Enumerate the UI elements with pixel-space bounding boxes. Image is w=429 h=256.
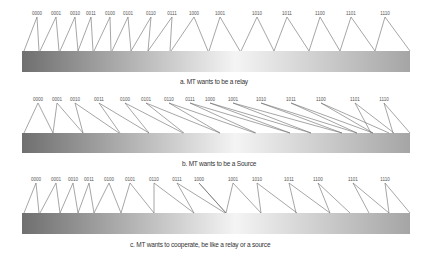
gradient-bar — [22, 133, 410, 153]
mapping-edge — [351, 17, 375, 51]
mapping-edge — [109, 183, 121, 213]
mapping-edge — [375, 17, 385, 51]
codeword-label: 1011 — [282, 11, 292, 16]
codeword-label: 0110 — [149, 177, 159, 182]
mapping-edge — [257, 17, 274, 51]
mapping-edge — [177, 183, 194, 213]
mapping-edge — [226, 183, 233, 213]
mapping-edge — [78, 17, 91, 51]
codeword-label: 1000 — [189, 11, 200, 16]
codeword-label: 1100 — [315, 11, 325, 16]
mapping-edge — [148, 17, 172, 51]
codeword-label: 1001 — [228, 177, 239, 182]
mapping-edge — [40, 183, 56, 213]
codeword-label: 0100 — [104, 177, 115, 182]
mapping-edge — [60, 17, 75, 51]
mapping-edge — [78, 183, 89, 213]
mapping-edge — [257, 183, 261, 213]
mapping-edge — [318, 183, 350, 213]
diagram-canvas: 0000000100100011010001010110011110001001… — [0, 0, 429, 256]
mapping-edge — [24, 17, 37, 51]
mapping-edge — [385, 17, 410, 51]
codeword-label: 1101 — [350, 97, 360, 102]
mapping-edge — [110, 17, 111, 51]
codeword-label: 1101 — [346, 11, 356, 16]
codeword-label: 0011 — [94, 97, 104, 102]
mapping-edge — [99, 103, 149, 133]
mapping-edge — [40, 17, 56, 51]
mapping-edge — [73, 183, 78, 213]
codeword-label: 0000 — [32, 11, 43, 16]
mapping-edge — [75, 17, 78, 51]
mapping-edge — [154, 183, 194, 213]
mapping-edge — [210, 103, 311, 133]
mapping-edge — [199, 183, 226, 213]
panel-c: 0000000100100011010001010110011110001001… — [22, 177, 410, 234]
mapping-edge — [355, 103, 371, 133]
codeword-label: 1110 — [379, 97, 389, 102]
mapping-edge — [146, 103, 220, 133]
codeword-label: 1110 — [380, 11, 390, 16]
codeword-label: 0011 — [86, 11, 96, 16]
codeword-label: 1100 — [316, 97, 326, 102]
mapping-edge — [220, 17, 240, 51]
mapping-edge — [171, 17, 194, 51]
mapping-edge — [89, 183, 94, 213]
mapping-edge — [190, 103, 256, 133]
codeword-label: 1100 — [313, 177, 323, 182]
panel-b: 0000000100100011010001010110011110001001… — [22, 97, 410, 153]
codeword-label: 0011 — [84, 177, 94, 182]
mapping-edge — [233, 183, 261, 213]
codeword-label: 0000 — [33, 97, 44, 102]
mapping-edge — [128, 17, 131, 51]
mapping-edge — [121, 183, 130, 213]
mapping-edge — [131, 17, 151, 51]
mapping-edge — [274, 17, 287, 51]
mapping-edge — [287, 17, 309, 51]
codeword-label: 0111 — [172, 177, 182, 182]
mapping-edge — [53, 103, 57, 133]
codeword-label: 0010 — [70, 97, 81, 102]
panel-a: 0000000100100011010001010110011110001001… — [22, 11, 410, 72]
codeword-label: 0110 — [164, 97, 174, 102]
codeword-label: 0101 — [125, 177, 136, 182]
codeword-label: 0100 — [105, 11, 116, 16]
mapping-edge — [36, 183, 39, 213]
mapping-edge — [99, 103, 120, 133]
mapping-edge — [170, 17, 172, 51]
codeword-label: 1101 — [348, 177, 358, 182]
codeword-label: 1000 — [194, 177, 205, 182]
mapping-edge — [60, 183, 73, 213]
codeword-label: 0001 — [52, 97, 63, 102]
codeword-label: 1011 — [284, 177, 294, 182]
codeword-label: 1110 — [380, 177, 390, 182]
codeword-label: 0010 — [70, 11, 81, 16]
mapping-edge — [385, 183, 410, 213]
codeword-label: 0001 — [51, 177, 62, 182]
mapping-edge — [209, 17, 220, 51]
mapping-edge — [177, 183, 225, 213]
mapping-edge — [194, 17, 208, 51]
mapping-edge — [112, 17, 128, 51]
mapping-edge — [91, 17, 93, 51]
codeword-label: 0110 — [146, 11, 156, 16]
codeword-label: 1000 — [205, 97, 216, 102]
codeword-label: 0111 — [185, 97, 195, 102]
mapping-edge — [340, 17, 351, 51]
codeword-label: 1010 — [256, 97, 267, 102]
mapping-edge — [320, 17, 340, 51]
codeword-label: 1010 — [252, 177, 263, 182]
codeword-label: 0101 — [123, 11, 134, 16]
codeword-label: 0001 — [51, 11, 62, 16]
codeword-label: 0101 — [141, 97, 152, 102]
gradient-bar — [22, 51, 410, 72]
mapping-edge — [309, 17, 320, 51]
mapping-edge — [148, 17, 151, 51]
mapping-edge — [94, 17, 110, 51]
mapping-edge — [56, 17, 59, 51]
codeword-label: 1011 — [286, 97, 296, 102]
mapping-edge — [257, 183, 297, 213]
mapping-edge — [24, 103, 38, 133]
codeword-label: 1010 — [252, 11, 263, 16]
codeword-label: 1001 — [228, 97, 239, 102]
